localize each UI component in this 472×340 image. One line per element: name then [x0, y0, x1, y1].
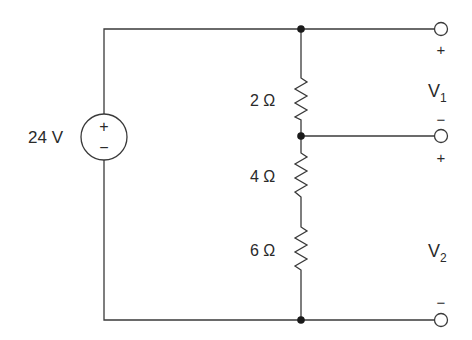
- v1-plus: +: [437, 41, 446, 58]
- terminal-top: [435, 23, 448, 36]
- terminal-bottom: [435, 314, 448, 327]
- vertical-wire: [295, 29, 307, 320]
- v2-plus: +: [437, 149, 446, 166]
- v2-label: V2: [428, 241, 447, 265]
- resistor-4-label: 4 Ω: [250, 168, 275, 185]
- v2-minus: −: [437, 294, 446, 311]
- junction-middle: [297, 132, 305, 140]
- source-minus: −: [99, 139, 108, 156]
- circuit-canvas: + − 24 V 2 Ω 4 Ω 6 Ω + V1 − + V2 −: [0, 0, 472, 340]
- voltage-source-icon: + −: [81, 114, 127, 160]
- junction-bottom: [297, 316, 305, 324]
- junction-top: [297, 25, 305, 33]
- resistor-2-label: 2 Ω: [250, 92, 275, 109]
- resistor-6-label: 6 Ω: [250, 242, 275, 259]
- source-label: 24 V: [28, 128, 64, 147]
- terminal-middle: [435, 130, 448, 143]
- v1-minus: −: [437, 111, 446, 128]
- v1-label: V1: [428, 81, 447, 105]
- source-plus: +: [99, 118, 108, 135]
- circuit-diagram: + − 24 V 2 Ω 4 Ω 6 Ω + V1 − + V2 −: [0, 0, 472, 340]
